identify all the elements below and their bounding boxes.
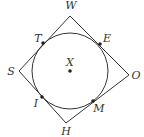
label-S: S [7,65,15,78]
label-H: H [60,125,71,137]
tangent-point-E [98,42,102,46]
label-E: E [102,32,111,45]
tangent-point-T [41,41,45,45]
center-point-X [68,69,72,73]
circle-diagram: W O H S T E M I X [0,0,144,137]
label-M: M [92,102,105,115]
label-X: X [65,56,75,69]
label-W: W [65,0,78,12]
label-I: I [33,97,39,110]
label-O: O [131,69,140,82]
tangent-point-I [40,95,44,99]
